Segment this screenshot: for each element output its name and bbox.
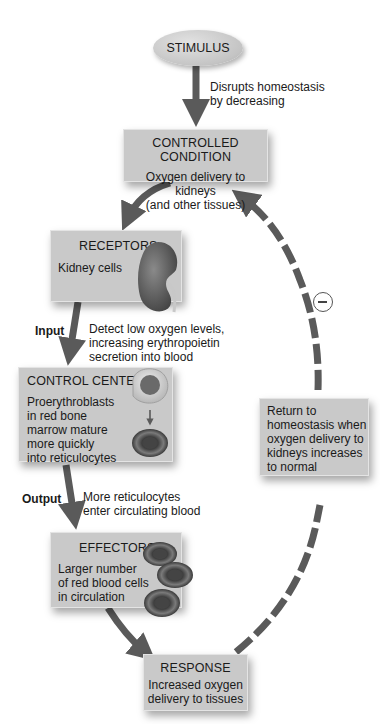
stimulus-node: STIMULUS bbox=[153, 30, 243, 66]
proerythroblast-cell-icon bbox=[133, 369, 168, 403]
input-note: Detect low oxygen levels, increasing ery… bbox=[89, 322, 224, 364]
output-note: More reticulocytes enter circulating blo… bbox=[83, 490, 200, 518]
controlled-condition-title: CONTROLLED CONDITION bbox=[124, 136, 267, 164]
controlled-condition-box: CONTROLLED CONDITION Oxygen delivery to … bbox=[123, 129, 268, 182]
kidney-icon bbox=[136, 240, 182, 316]
stimulus-label: STIMULUS bbox=[166, 41, 229, 55]
stimulus-note: Disrupts homeostasis by decreasing bbox=[210, 80, 325, 108]
red-blood-cells-icon bbox=[138, 540, 196, 620]
input-arrow bbox=[70, 302, 78, 352]
negative-feedback-icon bbox=[313, 292, 333, 312]
output-label: Output bbox=[22, 492, 61, 506]
output-arrow bbox=[66, 465, 74, 516]
feedback-upper-dashed bbox=[243, 198, 318, 390]
response-box: RESPONSE Increased oxygen delivery to ti… bbox=[143, 654, 248, 711]
input-label: Input bbox=[35, 324, 64, 338]
control-center-cells bbox=[125, 366, 175, 466]
feedback-lower-dashed bbox=[236, 505, 320, 652]
response-title: RESPONSE bbox=[144, 661, 247, 675]
feedback-box: Return to homeostasis when oxygen delive… bbox=[259, 398, 369, 476]
red-blood-cell-icon bbox=[132, 429, 168, 457]
